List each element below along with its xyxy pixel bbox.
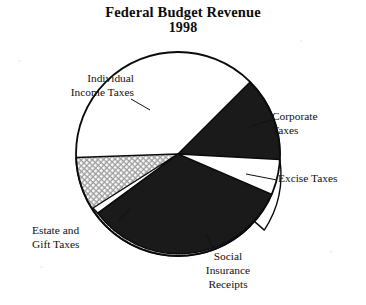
pie-label-estate-and-gift-taxes-line1: Estate and xyxy=(32,224,128,238)
pie-label-social-insurance-receipts-line2: Insurance xyxy=(176,264,280,278)
pie-label-estate-and-gift-taxes: Estate and Gift Taxes xyxy=(32,224,128,252)
pie-label-corporate-taxes-line2: Taxes xyxy=(272,124,358,138)
leader-line-individual-income-taxes xyxy=(131,99,150,110)
pie-label-corporate-taxes: Corporate Taxes xyxy=(272,110,358,138)
pie-label-social-insurance-receipts-line1: Social xyxy=(176,250,280,264)
pie-chart: Individual Income Taxes Corporate Taxes … xyxy=(0,0,366,305)
pie-label-estate-and-gift-taxes-line2: Gift Taxes xyxy=(32,238,128,252)
pie-label-social-insurance-receipts-line3: Receipts xyxy=(176,278,280,292)
figure-federal-budget-revenue-1998: Federal Budget Revenue 1998 xyxy=(0,0,366,305)
pie-label-excise-taxes: Excise Taxes xyxy=(278,172,362,186)
pie-label-corporate-taxes-line1: Corporate xyxy=(272,110,358,124)
pie-label-individual-income-taxes-line2: Income Taxes xyxy=(24,86,134,100)
pie-label-social-insurance-receipts: Social Insurance Receipts xyxy=(176,250,280,292)
pie-label-excise-taxes-line1: Excise Taxes xyxy=(278,172,362,186)
pie-label-individual-income-taxes-line1: Individual xyxy=(24,72,134,86)
pie-label-individual-income-taxes: Individual Income Taxes xyxy=(24,72,134,100)
